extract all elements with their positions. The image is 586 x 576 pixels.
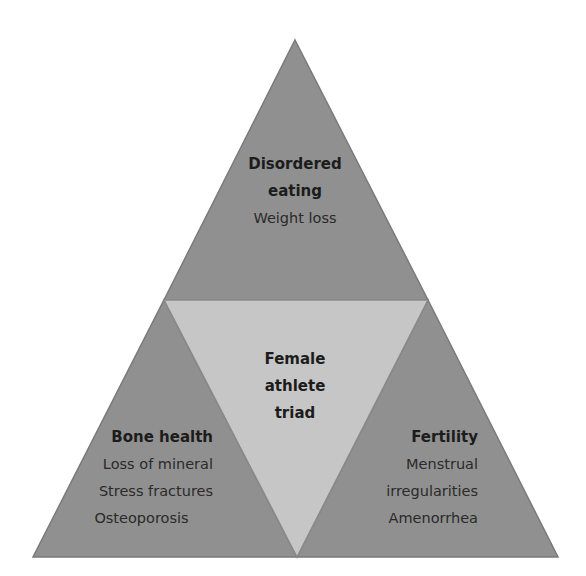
left-title: Bone health [70, 424, 213, 451]
center-title-line-3: triad [235, 400, 355, 427]
left-item-1: Loss of mineral [70, 451, 213, 478]
left-section-label: Bone health Loss of mineral Stress fract… [70, 424, 213, 532]
left-item-2: Stress fractures [70, 478, 213, 505]
right-title: Fertility [370, 424, 478, 451]
center-section-label: Female athlete triad [235, 346, 355, 427]
top-title-line-2: eating [215, 178, 375, 205]
top-section-label: Disordered eating Weight loss [215, 151, 375, 232]
top-item-1: Weight loss [215, 205, 375, 232]
center-title-line-1: Female [235, 346, 355, 373]
center-title-line-2: athlete [235, 373, 355, 400]
top-title-line-1: Disordered [215, 151, 375, 178]
right-section-label: Fertility Menstrual irregularities Ameno… [370, 424, 478, 532]
right-item-1: Menstrual [370, 451, 478, 478]
left-item-3: Osteoporosis [70, 505, 213, 532]
right-item-3: Amenorrhea [370, 505, 478, 532]
right-item-2: irregularities [370, 478, 478, 505]
